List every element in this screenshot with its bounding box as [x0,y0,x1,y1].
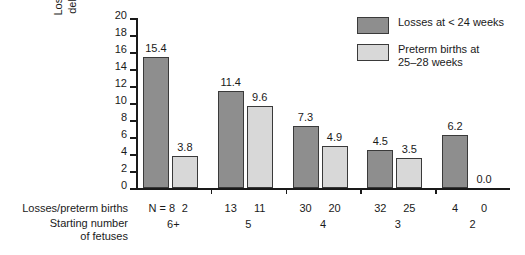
y-tick-label: 18 [115,27,127,38]
bar-value-label: 3.8 [166,142,204,153]
y-tick-label: 8 [121,112,127,123]
y-tick: 4 [130,154,136,156]
chart-legend: Losses at < 24 weeks Preterm births at 2… [357,16,525,78]
count-value: 0 [461,202,507,215]
x-tick [211,188,213,194]
bar[interactable] [247,106,273,188]
y-tick-label: 10 [115,95,127,106]
bar-value-label: 4.9 [316,132,354,143]
y-tick-label: 16 [115,44,127,55]
y-tick-label: 6 [121,129,127,140]
bar-value-label: 9.6 [241,92,279,103]
bar[interactable] [322,146,348,188]
legend-label-preterm: Preterm births at 25–28 weeks [398,43,479,69]
y-axis-title-line-1: Losses and preterm [51,0,65,16]
bar-value-label: 11.4 [212,77,250,88]
count-value: 2 [162,202,208,215]
bar[interactable] [396,158,422,188]
bar-value-label: 7.3 [287,112,325,123]
category-value: 5 [228,218,268,231]
count-value: 11 [237,202,283,215]
legend-swatch-light-icon [357,44,389,61]
x-tick [286,188,288,194]
y-tick: 12 [130,86,136,88]
legend-item-losses: Losses at < 24 weeks [357,16,525,34]
y-tick: 16 [130,52,136,54]
count-value: 25 [386,202,432,215]
x-tick [435,188,437,194]
count-value: 20 [312,202,358,215]
bar[interactable] [218,91,244,188]
bar-value-label: 6.2 [436,121,474,132]
x-axis-line [136,188,510,190]
bar[interactable] [143,57,169,188]
bar-value-label: 3.5 [390,144,428,155]
y-tick-label: 20 [115,10,127,21]
legend-item-preterm: Preterm births at 25–28 weeks [357,43,525,69]
bar-value-label: 15.4 [137,43,175,54]
category-value: 6+ [153,218,193,231]
legend-swatch-dark-icon [357,17,389,34]
bar-value-label: 0.0 [465,174,503,185]
y-axis-title-line-2: deliveries (percent) [65,0,79,14]
y-tick-label: 14 [115,61,127,72]
category-value: 4 [303,218,343,231]
chart-figure: Losses and preterm deliveries (percent) … [0,0,525,255]
y-tick: 0 [130,188,136,190]
y-tick-label: 4 [121,146,127,157]
y-tick: 14 [130,69,136,71]
category-value: 3 [378,218,418,231]
y-tick-label: 12 [115,78,127,89]
y-tick: 20 [130,18,136,20]
x-tick [360,188,362,194]
y-axis-title: Losses and preterm deliveries (percent) [47,0,83,52]
category-value: 2 [453,218,493,231]
categories-row-label: Starting number of fetuses [0,217,128,243]
y-tick-label: 0 [121,180,127,191]
y-tick: 10 [130,103,136,105]
y-tick: 18 [130,35,136,37]
bar[interactable] [172,156,198,188]
y-tick: 6 [130,137,136,139]
y-tick: 8 [130,120,136,122]
counts-row-label: Losses/preterm births [0,202,128,215]
y-tick-label: 2 [121,163,127,174]
legend-label-losses: Losses at < 24 weeks [398,16,504,29]
y-tick: 2 [130,171,136,173]
bar[interactable] [367,150,393,188]
